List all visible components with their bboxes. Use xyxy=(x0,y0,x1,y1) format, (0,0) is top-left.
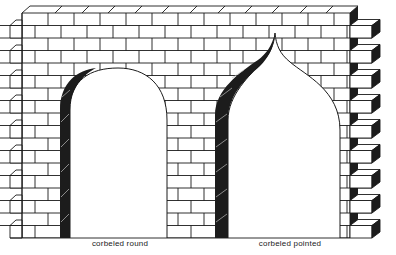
label-corbeled-pointed: corbeled pointed xyxy=(259,239,321,248)
round-arch-shadow xyxy=(60,68,96,238)
corbeled-arches-diagram xyxy=(0,0,396,255)
label-corbeled-round: corbeled round xyxy=(92,239,148,248)
right-toothed-edge xyxy=(350,20,380,239)
corbeled-round-arch xyxy=(60,68,167,238)
wall-top-face xyxy=(22,6,358,13)
brick-courses xyxy=(0,13,372,238)
round-arch-outline xyxy=(70,68,167,238)
